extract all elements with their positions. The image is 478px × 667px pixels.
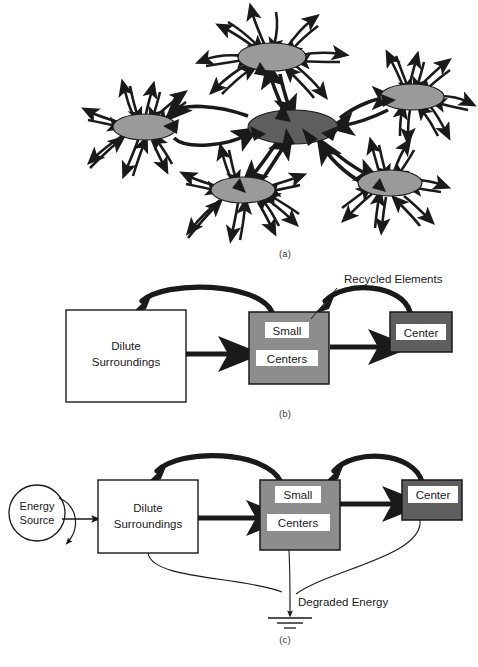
label-dilute-line1: Dilute <box>111 340 140 352</box>
recycle-arrows-c <box>157 456 422 482</box>
ground-symbol <box>268 618 312 628</box>
node-hub-center <box>248 110 338 144</box>
label-centers-c: Centers <box>278 517 319 529</box>
node-bottom-right <box>358 170 422 196</box>
energy-source-group: Energy Source <box>9 485 96 542</box>
recycle-arrows-b <box>142 287 410 312</box>
figure-root: (a) <box>0 0 478 667</box>
label-center-c: Center <box>416 489 451 501</box>
panel-b-box-diagram: Dilute Surroundings Small Centers Center… <box>0 262 478 412</box>
label-small: Small <box>273 325 302 337</box>
box-dilute-surroundings-c <box>98 480 198 553</box>
panel-b-label: (b) <box>265 408 305 419</box>
node-top-center <box>238 43 306 71</box>
panel-a-label: (a) <box>265 248 305 259</box>
label-energy-line1: Energy <box>20 500 55 512</box>
node-right <box>380 84 444 110</box>
label-small-c: Small <box>284 489 313 501</box>
energy-source-circle <box>9 485 65 541</box>
recycle-arrow-smallcenters-to-dilute <box>142 287 272 312</box>
recycle-arrow-smallcenters-to-dilute-c <box>157 456 281 482</box>
label-energy-line2: Source <box>20 514 55 526</box>
panel-c-energy-flow-diagram: Energy Source Dilute Surroundings Small … <box>0 428 478 638</box>
degraded-energy-group: Degraded Energy <box>268 594 388 628</box>
panel-c-label: (c) <box>265 634 305 645</box>
label-dilute-line1-c: Dilute <box>133 502 162 514</box>
label-dilute-line2-c: Surroundings <box>114 518 183 530</box>
text-recycled-elements: Recycled Elements <box>344 273 443 285</box>
degraded-from-dilute <box>148 553 282 592</box>
label-dilute-line2: Surroundings <box>92 356 161 368</box>
degraded-from-smallcenters <box>289 550 290 594</box>
panel-a-network-diagram <box>0 0 478 250</box>
recycle-arrow-center-to-smallcenters-c <box>334 456 422 482</box>
text-degraded-energy: Degraded Energy <box>298 596 388 608</box>
figure-caption <box>18 659 462 667</box>
recycle-arrow-center-to-smallcenters <box>325 288 410 312</box>
label-center: Center <box>404 327 439 339</box>
label-centers: Centers <box>267 353 308 365</box>
